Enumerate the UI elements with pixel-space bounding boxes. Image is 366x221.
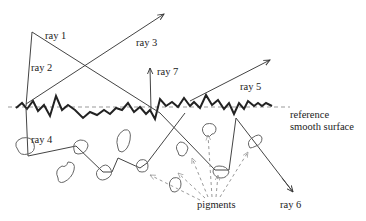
label-smooth-surface: smooth surface	[290, 121, 354, 132]
label-ray-3: ray 3	[136, 37, 157, 48]
label-ray-5: ray 5	[240, 81, 261, 92]
label-reference: reference	[290, 109, 329, 120]
pigment	[202, 124, 216, 137]
label-ray-1: ray 1	[45, 30, 66, 41]
pigment	[57, 162, 75, 183]
diagram-canvas: ray 1 ray 2 ray 3 ray 4 ray 5 ray 6 ray …	[0, 0, 366, 221]
pigment	[74, 140, 88, 154]
pigment	[136, 160, 148, 172]
pigment	[117, 130, 131, 152]
label-ray-6: ray 6	[280, 199, 301, 210]
pigment-pointers	[150, 135, 248, 200]
ray-7	[150, 68, 151, 110]
scattering-diagram: ray 1 ray 2 ray 3 ray 4 ray 5 ray 6 ray …	[0, 0, 366, 221]
ray-6-arrow	[282, 178, 293, 192]
label-ray-7: ray 7	[157, 66, 178, 77]
pigment	[169, 178, 181, 192]
label-ray-2: ray 2	[31, 62, 52, 73]
label-ray-4: ray 4	[31, 134, 53, 145]
ray-3	[26, 14, 164, 104]
label-pigments: pigments	[197, 199, 236, 210]
pigments-group	[16, 124, 262, 193]
pigment	[176, 142, 188, 156]
pigment	[213, 166, 229, 178]
